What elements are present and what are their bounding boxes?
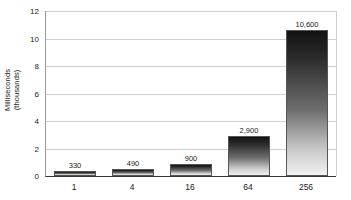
x-axis-tick-labels: 1 4 16 64 256	[45, 179, 335, 197]
bar-value-label: 900	[185, 154, 198, 163]
bar-slot: 900	[162, 11, 220, 176]
y-tick-label: 6	[35, 89, 39, 98]
bar[interactable]: 330	[54, 171, 97, 176]
bar[interactable]: 900	[170, 164, 213, 176]
bar[interactable]: 10,600	[286, 30, 329, 176]
x-tick-label: 4	[103, 179, 161, 197]
x-tick-label: 64	[219, 179, 277, 197]
y-tick-label: 0	[35, 172, 39, 181]
plot-right-border	[336, 11, 337, 176]
plot-area: 330 490 900 2,900 10,600	[45, 11, 336, 177]
y-axis-title-line-2: (thousands)	[12, 69, 21, 111]
bar-slot: 490	[104, 11, 162, 176]
bar-slot: 330	[46, 11, 104, 176]
bar-value-label: 2,900	[240, 126, 259, 135]
bar-value-label: 330	[69, 161, 82, 170]
bar-chart: Milliseconds (thousands) 12 10 8 6 4 2 0…	[0, 0, 351, 200]
y-axis-title-text: Milliseconds (thousands)	[3, 69, 21, 111]
y-tick-label: 8	[35, 62, 39, 71]
bar[interactable]: 2,900	[228, 136, 271, 176]
bar-slot: 10,600	[278, 11, 336, 176]
y-axis-tick-labels: 12 10 8 6 4 2 0	[22, 0, 42, 180]
x-tick-label: 256	[277, 179, 335, 197]
bar-slot: 2,900	[220, 11, 278, 176]
bar-value-label: 490	[127, 159, 140, 168]
bar-value-label: 10,600	[296, 20, 319, 29]
y-axis-title: Milliseconds (thousands)	[0, 0, 24, 180]
bar[interactable]: 490	[112, 169, 155, 176]
y-tick-label: 4	[35, 117, 39, 126]
x-tick-label: 16	[161, 179, 219, 197]
x-tick-label: 1	[45, 179, 103, 197]
y-tick-label: 2	[35, 144, 39, 153]
y-tick-label: 12	[30, 7, 39, 16]
bars-layer: 330 490 900 2,900 10,600	[46, 11, 336, 176]
y-axis-title-line-1: Milliseconds	[3, 69, 12, 111]
y-tick-label: 10	[30, 34, 39, 43]
